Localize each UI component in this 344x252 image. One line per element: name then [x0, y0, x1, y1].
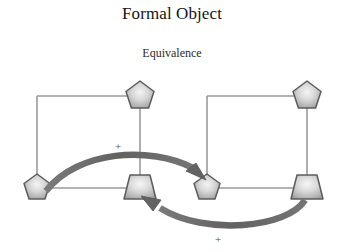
left-top-pentagon-node: [126, 81, 154, 108]
right-bottom-trapezoid-node: [291, 175, 323, 199]
plus-sign-upper: +: [115, 140, 121, 152]
right-frame: [207, 96, 307, 188]
reverse-mapping-arrow: [141, 196, 305, 225]
left-formal-object-group: [24, 81, 156, 199]
left-bottom-trapezoid-node: [124, 175, 156, 199]
right-formal-object-group: [194, 81, 323, 199]
figure-root: Formal Object Equivalence: [0, 0, 344, 252]
diagram-canvas: + +: [0, 0, 344, 252]
forward-mapping-arrow: [46, 155, 206, 191]
plus-sign-lower: +: [215, 233, 221, 245]
right-top-pentagon-node: [293, 81, 321, 108]
right-bottom-pentagon-node: [194, 174, 220, 199]
left-frame: [37, 96, 140, 188]
